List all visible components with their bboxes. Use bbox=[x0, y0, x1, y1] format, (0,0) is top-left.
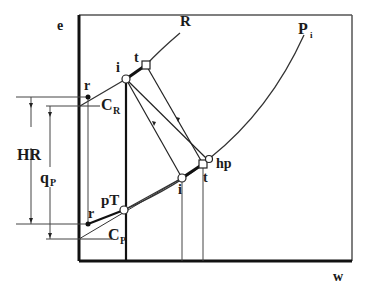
upper-t-label: t bbox=[134, 50, 139, 65]
diagram-canvas: e w R P i i t r r i t hp pT C R C P HR q… bbox=[0, 0, 366, 292]
x-axis-label: w bbox=[333, 269, 344, 284]
r-curve-label: R bbox=[180, 13, 191, 29]
t-to-t-line bbox=[146, 65, 203, 164]
cr-label: C bbox=[101, 96, 113, 113]
upper-i-label: i bbox=[116, 60, 120, 75]
upper-i-marker bbox=[122, 75, 130, 83]
pi-curve-subscript: i bbox=[310, 30, 313, 40]
upper-r-label: r bbox=[84, 78, 90, 93]
y-axis-label: e bbox=[57, 18, 63, 33]
hp-label: hp bbox=[216, 156, 232, 171]
lower-i-label: i bbox=[178, 182, 182, 197]
r-curve bbox=[80, 33, 180, 106]
hp-marker bbox=[206, 156, 213, 163]
qp-label: q bbox=[40, 169, 49, 187]
hr-label: HR bbox=[17, 146, 41, 163]
plot-frame bbox=[79, 15, 352, 261]
lower-t-label: t bbox=[203, 170, 208, 185]
cp-subscript: P bbox=[120, 235, 126, 246]
lower-r-label: r bbox=[88, 206, 94, 221]
cr-subscript: R bbox=[113, 105, 121, 116]
lower-r-marker bbox=[86, 222, 91, 227]
i-to-i-line bbox=[126, 79, 182, 178]
lower-i-marker bbox=[178, 174, 186, 182]
i-to-hp-line bbox=[126, 79, 208, 160]
pt-marker bbox=[120, 206, 128, 214]
upper-r-marker bbox=[86, 95, 91, 100]
qp-subscript: P bbox=[50, 177, 56, 188]
cp-label: C bbox=[108, 226, 120, 243]
pt-label: pT bbox=[101, 192, 119, 208]
upper-t-marker bbox=[142, 61, 150, 69]
pi-curve-label: P bbox=[298, 20, 308, 37]
